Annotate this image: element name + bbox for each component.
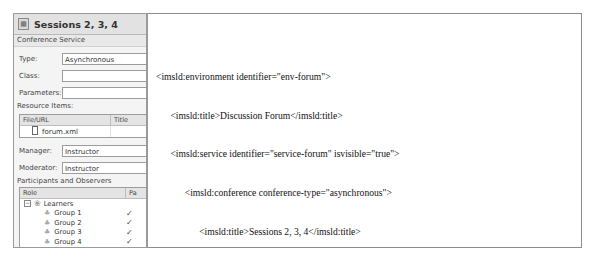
column-file-url[interactable]: File/URL	[20, 115, 111, 125]
role-name: Group 2	[54, 219, 126, 227]
type-input[interactable]: Asynchronous	[62, 53, 146, 65]
group-name: Learners	[44, 200, 146, 208]
table-row[interactable]: forum.xml	[20, 126, 146, 137]
role-icon: ♣	[44, 238, 50, 246]
xml-code-panel: <imsld:environment identifier="env-forum…	[147, 13, 582, 248]
class-label: Class:	[19, 72, 62, 80]
role-name: Group 4	[54, 238, 126, 246]
role-name: Group 3	[54, 228, 126, 236]
type-field-row: Type: Asynchronous	[14, 50, 146, 67]
group-name: Staff	[44, 247, 146, 248]
role-icon: ♣	[44, 219, 50, 227]
participant-checkbox[interactable]: ✓	[126, 218, 146, 227]
code-line: <imsld:service identifier="service-forum…	[156, 148, 534, 161]
role-icon: ♣	[44, 228, 50, 236]
code-line: <imsld:environment identifier="env-forum…	[156, 71, 534, 84]
manager-input[interactable]: Instructor	[62, 145, 146, 157]
tree-group-learners[interactable]: − ❀ Learners	[20, 199, 146, 209]
type-label: Type:	[19, 55, 62, 63]
class-field-row: Class:	[14, 67, 146, 84]
code-line: <imsld:title>Sessions 2, 3, 4</imsld:tit…	[156, 226, 534, 239]
role-name: Group 1	[54, 209, 126, 217]
conference-icon: ▦	[18, 18, 29, 30]
tree-item-group-1[interactable]: ♣ Group 1 ✓	[20, 209, 146, 219]
file-icon	[32, 126, 38, 135]
section-label: Conference Service	[14, 35, 146, 47]
file-name: forum.xml	[42, 128, 78, 136]
resource-table-header: File/URL Title	[20, 115, 146, 126]
participant-checkbox[interactable]: ✓	[126, 209, 146, 218]
class-input[interactable]	[62, 70, 146, 82]
code-line: <imsld:conference conference-type="async…	[156, 187, 534, 200]
participant-checkbox[interactable]: ✓	[126, 228, 146, 237]
manager-label: Manager:	[19, 147, 62, 155]
moderator-input[interactable]: Instructor	[62, 162, 146, 174]
tree-item-group-3[interactable]: ♣ Group 3 ✓	[20, 228, 146, 238]
resource-items-label: Resource Items:	[14, 101, 146, 112]
manager-field-row: Manager: Instructor	[14, 142, 146, 159]
xml-code: <imsld:environment identifier="env-forum…	[156, 45, 534, 261]
tree-item-group-4[interactable]: ♣ Group 4 ✓	[20, 237, 146, 247]
panel-title: Sessions 2, 3, 4	[34, 19, 118, 30]
file-title	[111, 126, 146, 137]
column-participant[interactable]: Pa	[126, 188, 146, 198]
role-icon: ♣	[44, 209, 50, 217]
tree-group-staff[interactable]: − ❀ Staff	[20, 247, 146, 249]
tree-item-group-2[interactable]: ♣ Group 2 ✓	[20, 218, 146, 228]
moderator-label: Moderator:	[19, 164, 62, 172]
parameters-field-row: Parameters:	[14, 84, 146, 101]
moderator-field-row: Moderator: Instructor	[14, 159, 146, 176]
participants-label: Participants and Observers	[14, 176, 146, 187]
participant-checkbox[interactable]: ✓	[126, 237, 146, 246]
participants-table-header: Role Pa	[20, 188, 146, 199]
conference-properties-panel: ▦ Sessions 2, 3, 4 Conference Service Ty…	[13, 13, 147, 248]
group-icon: ❀	[34, 199, 41, 208]
group-icon: ❀	[34, 247, 41, 248]
parameters-label: Parameters:	[19, 89, 62, 97]
parameters-input[interactable]	[62, 87, 146, 99]
code-line: <imsld:title>Discussion Forum</imsld:tit…	[156, 110, 534, 123]
panel-header: ▦ Sessions 2, 3, 4	[14, 14, 146, 35]
collapse-icon[interactable]: −	[24, 200, 31, 207]
resource-items-table: File/URL Title forum.xml	[19, 114, 146, 138]
column-role[interactable]: Role	[20, 188, 126, 198]
participants-tree-table: Role Pa − ❀ Learners ♣ Group 1 ✓ ♣ Group…	[19, 187, 146, 248]
column-title[interactable]: Title	[111, 115, 146, 125]
